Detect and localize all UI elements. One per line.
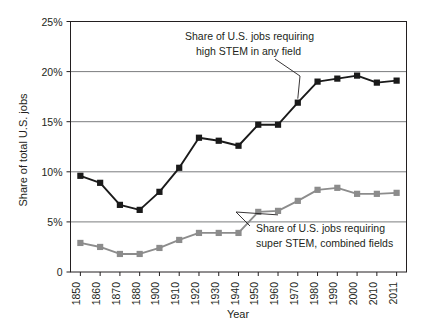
data-point-marker [314,187,320,193]
data-point-marker [97,180,103,186]
annotation-super-stem-line1: Share of U.S. jobs requiring [256,222,385,234]
data-point-marker [156,189,162,195]
data-point-marker [77,173,83,179]
data-point-marker [374,191,380,197]
data-point-marker [235,230,241,236]
data-point-marker [216,230,222,236]
data-point-marker [176,165,182,171]
data-point-marker [394,78,400,84]
x-tick-label-1940: 1940 [229,282,241,306]
y-tick-label-25%: 25% [41,16,62,28]
y-tick-label-5%: 5% [47,216,62,228]
x-tick-label-1990: 1990 [327,282,339,306]
x-tick-label-1970: 1970 [288,282,300,306]
x-tick-label-1930: 1930 [209,282,221,306]
x-tick-label-1850: 1850 [70,282,82,306]
data-point-marker [314,79,320,85]
data-point-marker [394,190,400,196]
x-tick-label-1980: 1980 [308,282,320,306]
x-tick-label-2000: 2000 [347,282,359,306]
annotation-super-stem-line2: super STEM, combined fields [256,237,393,249]
annotation-high-stem-line2: high STEM in any field [196,45,301,57]
x-tick-label-1960: 1960 [268,282,280,306]
data-point-marker [176,237,182,243]
x-tick-label-1910: 1910 [169,282,181,306]
data-point-marker [295,100,301,106]
y-tick-label-10%: 10% [41,166,62,178]
data-point-marker [255,122,261,128]
data-point-marker [334,185,340,191]
data-point-marker [374,80,380,86]
x-tick-label-1900: 1900 [149,282,161,306]
data-point-marker [235,143,241,149]
data-point-marker [295,198,301,204]
data-point-marker [354,73,360,79]
data-point-marker [275,208,281,214]
y-axis-title: Share of total U.S. jobs [17,93,29,207]
data-point-marker [156,245,162,251]
x-tick-label-1860: 1860 [90,282,102,306]
x-tick-label-1950: 1950 [248,282,260,306]
data-point-marker [137,251,143,257]
stem-jobs-line-chart: 05%10%15%20%25% 185018601870188019001910… [0,0,433,330]
y-tick-label-15%: 15% [41,116,62,128]
data-point-marker [216,138,222,144]
data-point-marker [354,191,360,197]
data-point-marker [334,76,340,82]
data-point-marker [275,122,281,128]
data-point-marker [117,202,123,208]
x-tick-label-2010: 2010 [367,282,379,306]
data-point-marker [117,251,123,257]
y-tick-label-0: 0 [57,266,63,278]
data-point-marker [77,240,83,246]
x-tick-label-1920: 1920 [189,282,201,306]
chart-figure: 05%10%15%20%25% 185018601870188019001910… [0,0,433,330]
data-point-marker [196,135,202,141]
x-tick-label-2011: 2011 [387,282,399,305]
x-axis-title: Year [227,308,250,320]
data-point-marker [196,230,202,236]
annotation-high-stem-line1: Share of U.S. jobs requiring [185,30,314,42]
data-point-marker [137,207,143,213]
x-tick-label-1880: 1880 [130,282,142,306]
data-point-marker [97,244,103,250]
y-tick-label-20%: 20% [41,66,62,78]
x-tick-label-1870: 1870 [110,282,122,306]
